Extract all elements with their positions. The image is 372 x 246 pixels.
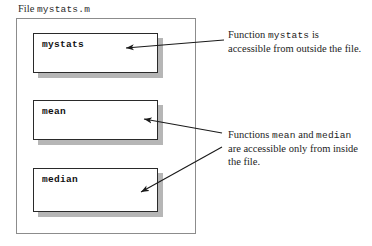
annotation-text-prefix: Function	[228, 29, 268, 40]
annotation-line: are accessible only from inside	[228, 142, 358, 155]
file-label-prefix: File	[18, 3, 37, 14]
function-box-label: mystats	[42, 39, 84, 50]
annotation-local-functions: Functions mean and median are accessible…	[228, 128, 358, 168]
annotation-line: Functions mean and median	[228, 128, 358, 142]
annotation-code-mean: mean	[272, 130, 296, 141]
annotation-text-prefix: Functions	[228, 129, 272, 140]
annotation-line: the file.	[228, 155, 358, 168]
file-label-filename: mystats.m	[37, 4, 90, 15]
annotation-text-mid: and	[296, 129, 316, 140]
function-box-label: median	[42, 174, 78, 185]
function-box-median: median	[33, 168, 158, 212]
annotation-text-suffix: is	[309, 29, 319, 40]
annotation-code-median: median	[316, 130, 351, 141]
function-box-mean: mean	[33, 100, 158, 140]
annotation-line: accessible from outside the file.	[228, 42, 361, 55]
file-label: File mystats.m	[18, 2, 90, 17]
annotation-line: Function mystats is	[228, 28, 361, 42]
annotation-code-mystats: mystats	[268, 30, 309, 41]
annotation-mystats: Function mystats is accessible from outs…	[228, 28, 361, 55]
function-box-label: mean	[42, 106, 66, 117]
function-box-mystats: mystats	[33, 33, 158, 73]
diagram-canvas: File mystats.m mystats mean median Funct…	[0, 0, 372, 246]
